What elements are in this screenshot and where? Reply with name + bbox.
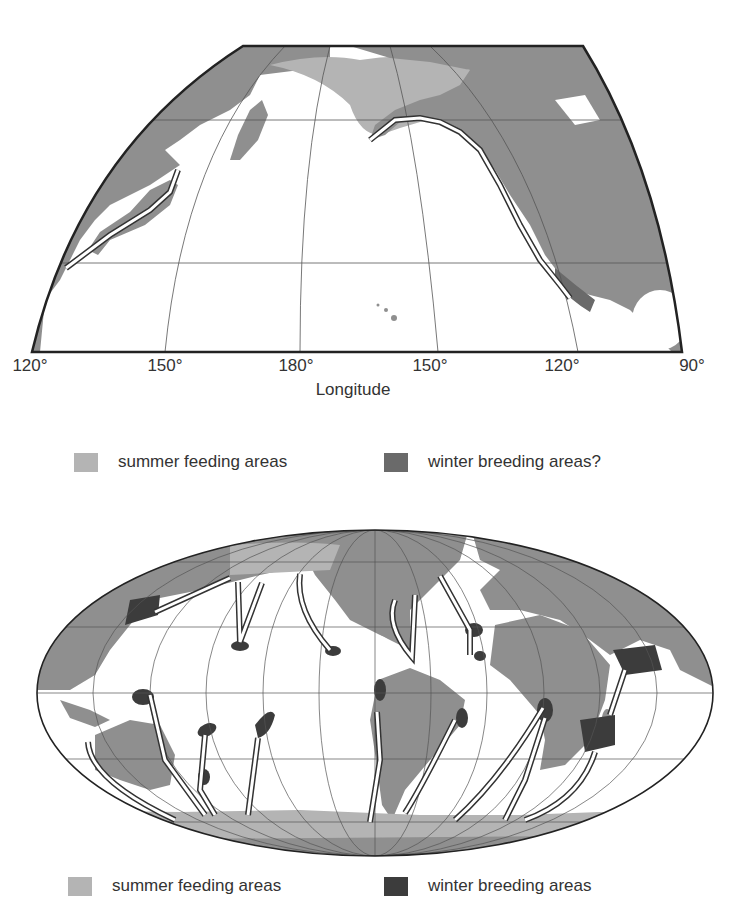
summer-feeding-swatch xyxy=(74,453,98,472)
x-tick-90w: 90° xyxy=(679,356,705,376)
legend-label: summer feeding areas xyxy=(112,876,281,896)
x-tick-150w: 150° xyxy=(412,356,447,376)
legend-label: winter breeding areas? xyxy=(428,452,601,472)
eurasia-landmass xyxy=(30,525,330,690)
x-tick-120w-b: 120° xyxy=(544,356,579,376)
legend-item-winter-breeding-world: winter breeding areas xyxy=(384,876,591,896)
winter-breeding-areas xyxy=(125,595,662,785)
north-america-landmass xyxy=(300,525,470,650)
winter-breeding-swatch xyxy=(384,877,408,896)
europe-asia-east xyxy=(470,525,720,690)
x-tick-180: 180° xyxy=(278,356,313,376)
south-america-landmass xyxy=(370,668,465,820)
australia-landmass xyxy=(95,720,175,790)
legend-label: summer feeding areas xyxy=(118,452,287,472)
migration-routes xyxy=(88,574,625,822)
legend-label: winter breeding areas xyxy=(428,876,591,896)
summer-feeding-area-antarctic xyxy=(30,810,720,870)
legend-item-winter-breeding-possible: winter breeding areas? xyxy=(384,452,601,472)
winter-breeding-possible-swatch xyxy=(384,453,408,472)
x-axis-title: Longitude xyxy=(316,380,391,400)
africa-landmass xyxy=(490,615,610,770)
antarctica-landmass xyxy=(30,835,720,870)
north-pacific-map xyxy=(0,0,731,360)
legend-item-summer-feeding-world: summer feeding areas xyxy=(68,876,281,896)
world-map-frame xyxy=(37,530,713,856)
x-tick-120w: 120° xyxy=(12,356,47,376)
legend-item-summer-feeding: summer feeding areas xyxy=(74,452,287,472)
summer-feeding-swatch xyxy=(68,877,92,896)
x-tick-150e: 150° xyxy=(147,356,182,376)
